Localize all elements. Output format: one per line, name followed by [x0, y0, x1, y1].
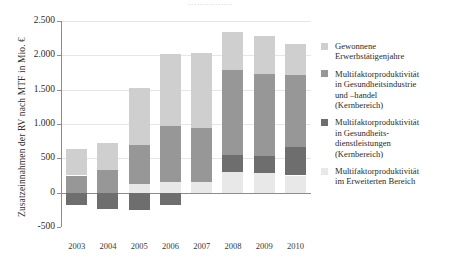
legend-item-1[interactable]: Multifaktorproduktivitätin Gesundheitsin…: [321, 69, 455, 111]
legend-label-line: im Erweiterten Bereich: [335, 176, 455, 186]
bar-segment: [222, 70, 243, 155]
legend-label-line: Multifaktorproduktivität: [335, 166, 455, 176]
bar-segment: [285, 75, 306, 146]
legend-swatch-icon: [321, 43, 328, 50]
bar-segment: [129, 145, 150, 185]
bar-segment-negative: [97, 193, 118, 209]
legend-label-line: Gewonnene: [335, 41, 455, 51]
y-tick: [57, 227, 61, 228]
y-tick-label: 2.500: [3, 15, 55, 25]
legend-item-0[interactable]: GewonneneErwerbstätigenjahre: [321, 41, 455, 62]
bar-segment: [160, 126, 181, 182]
legend-swatch-icon: [321, 168, 328, 175]
y-tick-label: -500: [3, 221, 55, 231]
y-tick-label: 500: [3, 152, 55, 162]
y-axis-line: [61, 21, 62, 227]
chart-legend: GewonneneErwerbstätigenjahreMultifaktorp…: [321, 41, 455, 194]
bar-segment: [254, 36, 275, 73]
bar-2004[interactable]: [97, 21, 118, 227]
bar-segment: [285, 176, 306, 193]
bar-segment: [160, 54, 181, 126]
bar-segment: [222, 172, 243, 193]
bar-2003[interactable]: [66, 21, 87, 227]
bar-segment: [129, 184, 150, 192]
y-tick-label: 1.500: [3, 84, 55, 94]
bar-2009[interactable]: [254, 21, 275, 227]
bar-segment: [97, 170, 118, 193]
bar-segment: [254, 173, 275, 193]
y-tick-label: 0: [3, 187, 55, 197]
legend-item-3[interactable]: Multifaktorproduktivitätim Erweiterten B…: [321, 166, 455, 187]
bar-segment: [66, 149, 87, 175]
legend-swatch-icon: [321, 119, 328, 126]
bar-segment: [160, 182, 181, 192]
chart-page: ··············· Zusatzeinnahmen der RV n…: [0, 0, 455, 269]
bar-segment: [254, 74, 275, 156]
bar-2007[interactable]: [191, 21, 212, 227]
x-tick-label-2010: 2010: [275, 241, 315, 251]
bar-2005[interactable]: [129, 21, 150, 227]
legend-label-line: in Gesundheitsindustrie: [335, 79, 455, 89]
legend-label-line: in Gesundheits-: [335, 128, 455, 138]
bar-segment: [191, 53, 212, 128]
cut-off-title: ···············: [60, 0, 360, 9]
bar-segment: [285, 147, 306, 176]
bar-segment: [66, 176, 87, 193]
bar-segment-negative: [129, 193, 150, 210]
bar-segment: [285, 44, 306, 76]
plot-area: 2.5002.0001.5001.0005000-500200320042005…: [61, 21, 311, 227]
bar-segment: [222, 32, 243, 69]
bar-segment: [254, 156, 275, 173]
bar-2008[interactable]: [222, 21, 243, 227]
bar-segment-negative: [66, 193, 87, 205]
bar-segment-negative: [160, 193, 181, 205]
legend-item-2[interactable]: Multifaktorproduktivitätin Gesundheits-d…: [321, 117, 455, 159]
legend-label-line: und –handel: [335, 90, 455, 100]
bar-segment: [191, 182, 212, 192]
legend-swatch-icon: [321, 70, 328, 77]
bar-2010[interactable]: [285, 21, 306, 227]
bar-segment: [222, 155, 243, 172]
legend-label-line: Multifaktorproduktivität: [335, 117, 455, 127]
bar-2006[interactable]: [160, 21, 181, 227]
bar-segment: [191, 128, 212, 182]
legend-label-line: dienstleistungen: [335, 138, 455, 148]
legend-label-line: (Kernbereich): [335, 100, 455, 110]
bar-segment: [129, 88, 150, 145]
legend-label-line: (Kernbereich): [335, 149, 455, 159]
y-tick-label: 1.000: [3, 118, 55, 128]
bar-segment: [97, 143, 118, 170]
y-tick-label: 2.000: [3, 49, 55, 59]
legend-label-line: Erwerbstätigenjahre: [335, 51, 455, 61]
legend-label-line: Multifaktorproduktivität: [335, 69, 455, 79]
